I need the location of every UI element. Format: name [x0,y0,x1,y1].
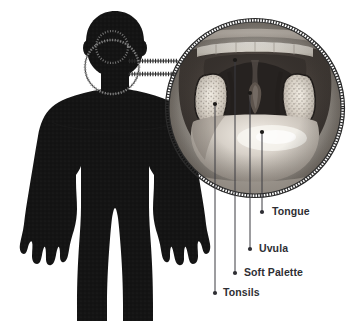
label-dot-tonsils [213,291,217,295]
silhouette-head [86,11,144,77]
anchor-dot-tongue [260,130,264,134]
anchor-dot-tonsils [213,102,217,106]
anchor-dot-uvula [248,91,252,95]
callout-label-uvula: Uvula [259,243,288,254]
anchor-dot-soft-palette [233,58,237,62]
callout-label-soft-palette: Soft Palette [244,267,303,278]
label-dot-tongue [260,210,264,214]
label-dot-soft-palette [233,271,237,275]
photo-inner-vignette [169,22,341,194]
callout-label-dots [213,210,264,295]
label-dot-uvula [248,247,252,251]
callout-label-tonsils: Tonsils [223,287,260,298]
callout-label-tongue: Tongue [272,206,310,217]
figure-canvas [0,0,362,321]
throat-anatomy-figure: Tongue Uvula Soft Palette Tonsils [0,0,362,321]
silhouette-ear-right [137,40,147,56]
